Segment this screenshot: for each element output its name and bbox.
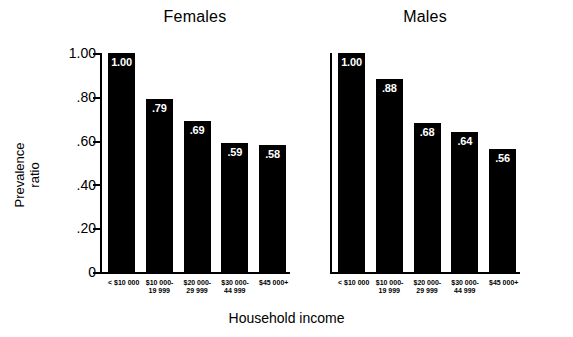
y-tick-mark bbox=[93, 53, 100, 55]
x-tick-label: $10 000- 19 999 bbox=[376, 279, 403, 295]
bar-females-3[interactable]: .59 bbox=[221, 143, 248, 272]
x-tick-label: $30 000- 44 999 bbox=[451, 279, 478, 295]
bar-males-4[interactable]: .56 bbox=[489, 149, 516, 272]
y-tick-mark bbox=[93, 184, 100, 186]
bar-slot: .69 bbox=[184, 53, 211, 272]
x-tick-label-line2: 19 999 bbox=[146, 287, 173, 295]
panel-title-females: Females bbox=[100, 8, 290, 26]
bar-value-label: 1.00 bbox=[108, 56, 135, 68]
panel-females: Females 1.00 .79 bbox=[100, 0, 290, 337]
bar-females-0[interactable]: 1.00 bbox=[108, 53, 135, 272]
x-tick-label-line1: $45 000+ bbox=[259, 279, 286, 287]
y-axis-title: Prevalence ratio bbox=[4, 120, 50, 230]
x-tick-label: $10 000- 19 999 bbox=[146, 279, 173, 295]
x-tick-label-line1: $20 000- bbox=[414, 279, 441, 287]
bar-slot: .64 bbox=[451, 53, 478, 272]
y-tick-mark bbox=[93, 141, 100, 143]
bar-females-1[interactable]: .79 bbox=[146, 99, 173, 272]
x-tick-label: $20 000- 29 999 bbox=[414, 279, 441, 295]
x-tick-label-line2: 44 999 bbox=[451, 287, 478, 295]
x-tick-label-line2: 44 999 bbox=[221, 287, 248, 295]
x-tick-label-line2: 19 999 bbox=[376, 287, 403, 295]
bar-slot: .79 bbox=[146, 53, 173, 272]
x-tick-label-line1: $30 000- bbox=[221, 279, 248, 287]
x-tick-label-line1: $10 000- bbox=[376, 279, 403, 287]
bar-slot: .88 bbox=[376, 53, 403, 272]
y-axis-line-males bbox=[330, 53, 332, 274]
bar-value-label: .79 bbox=[146, 102, 173, 114]
y-axis-title-line1: Prevalence bbox=[12, 142, 27, 207]
x-tick-label: $45 000+ bbox=[489, 279, 516, 295]
bar-males-3[interactable]: .64 bbox=[451, 132, 478, 272]
y-tick-mark bbox=[93, 97, 100, 99]
bar-value-label: .59 bbox=[221, 146, 248, 158]
x-tick-label-line1: < $10 000 bbox=[108, 279, 135, 287]
y-axis-title-line2: ratio bbox=[27, 142, 42, 207]
bar-males-1[interactable]: .88 bbox=[376, 79, 403, 272]
y-tick-mark bbox=[93, 228, 100, 230]
x-axis-line-females bbox=[100, 272, 290, 274]
bar-slot: .58 bbox=[259, 53, 286, 272]
bar-value-label: .56 bbox=[489, 152, 516, 164]
bar-slot: 1.00 bbox=[108, 53, 135, 272]
bar-slot: 1.00 bbox=[338, 53, 365, 272]
x-tick-label-line1: < $10 000 bbox=[338, 279, 365, 287]
plot-area-males: 1.00 .88 .68 .64 bbox=[338, 53, 516, 272]
bar-males-2[interactable]: .68 bbox=[414, 123, 441, 272]
x-axis-tick-labels-females: < $10 000 $10 000- 19 999 $20 000- 29 99… bbox=[108, 279, 286, 295]
x-tick-label: $20 000- 29 999 bbox=[184, 279, 211, 295]
x-tick-label: < $10 000 bbox=[338, 279, 365, 295]
bar-value-label: .88 bbox=[376, 82, 403, 94]
x-axis-title: Household income bbox=[0, 310, 573, 326]
bar-slot: .68 bbox=[414, 53, 441, 272]
x-axis-line-males bbox=[330, 272, 520, 274]
y-tick-label: .80 bbox=[50, 91, 96, 103]
x-tick-label-line1: $30 000- bbox=[451, 279, 478, 287]
bar-slot: .59 bbox=[221, 53, 248, 272]
x-tick-label-line1: $45 000+ bbox=[489, 279, 516, 287]
x-tick-label-line2: 29 999 bbox=[184, 287, 211, 295]
y-tick-label: 0 bbox=[50, 266, 96, 278]
y-axis-tick-labels: 1.00 .80 .60 .40 .20 0 bbox=[50, 0, 96, 337]
bar-females-2[interactable]: .69 bbox=[184, 121, 211, 272]
y-tick-mark bbox=[93, 272, 100, 274]
x-tick-label: $30 000- 44 999 bbox=[221, 279, 248, 295]
x-tick-label: < $10 000 bbox=[108, 279, 135, 295]
y-tick-label: .40 bbox=[50, 179, 96, 191]
figure: Prevalence ratio 1.00 .80 .60 .40 .20 0 … bbox=[0, 0, 573, 337]
x-tick-label-line2: 29 999 bbox=[414, 287, 441, 295]
x-axis-tick-labels-males: < $10 000 $10 000- 19 999 $20 000- 29 99… bbox=[338, 279, 516, 295]
bar-value-label: .64 bbox=[451, 135, 478, 147]
bar-group-females: 1.00 .79 .69 .59 bbox=[108, 53, 286, 272]
bar-slot: .56 bbox=[489, 53, 516, 272]
x-tick-label-line1: $20 000- bbox=[184, 279, 211, 287]
x-tick-label: $45 000+ bbox=[259, 279, 286, 295]
bar-males-0[interactable]: 1.00 bbox=[338, 53, 365, 272]
x-tick-label-line1: $10 000- bbox=[146, 279, 173, 287]
y-tick-label: .20 bbox=[50, 222, 96, 234]
y-tick-label: 1.00 bbox=[50, 47, 96, 59]
y-tick-label: .60 bbox=[50, 135, 96, 147]
panel-males: Males 1.00 .88 .68 bbox=[330, 0, 520, 337]
bar-value-label: .69 bbox=[184, 124, 211, 136]
panel-title-males: Males bbox=[330, 8, 520, 26]
bar-group-males: 1.00 .88 .68 .64 bbox=[338, 53, 516, 272]
bar-value-label: .58 bbox=[259, 148, 286, 160]
bar-value-label: 1.00 bbox=[338, 56, 365, 68]
y-axis-line-females bbox=[100, 53, 102, 274]
bar-females-4[interactable]: .58 bbox=[259, 145, 286, 272]
bar-value-label: .68 bbox=[414, 126, 441, 138]
plot-area-females: 1.00 .79 .69 .59 bbox=[108, 53, 286, 272]
